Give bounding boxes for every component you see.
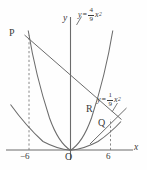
equation-steep-denominator: 9	[88, 15, 94, 24]
equation-flat-variable: x	[114, 96, 118, 104]
equation-steep-exponent: 2	[99, 12, 102, 18]
equation-label-flat-parabola: y = 1 9 x2	[97, 92, 121, 108]
line-segment-through-Q	[90, 108, 127, 144]
equation-flat-denominator: 9	[107, 100, 113, 109]
equation-flat-equals: =	[101, 96, 106, 104]
point-label-R: R	[86, 104, 93, 114]
equation-steep-lhs: y	[78, 11, 82, 19]
point-label-Q: Q	[98, 118, 105, 128]
x-axis-label: x	[134, 143, 138, 153]
coordinate-geometry-figure: y x −6 6 O P R Q y = 4 9 x2 y = 1 9 x2	[0, 0, 147, 170]
x-tick-label-6: 6	[106, 152, 111, 161]
equation-flat-lhs: y	[97, 96, 101, 104]
axes	[6, 17, 133, 160]
equation-label-steep-parabola: y = 4 9 x2	[78, 7, 102, 23]
x-tick-label-minus-6: −6	[20, 152, 30, 161]
equation-steep-fraction: 4 9	[88, 7, 94, 23]
plot-canvas	[0, 0, 147, 170]
point-label-origin: O	[65, 152, 72, 162]
equation-flat-exponent: 2	[118, 97, 121, 103]
y-axis-label: y	[63, 14, 67, 24]
equation-steep-variable: x	[95, 11, 99, 19]
point-label-P: P	[9, 28, 15, 38]
equation-steep-equals: =	[82, 11, 87, 19]
equation-flat-numerator: 1	[107, 92, 113, 100]
equation-flat-fraction: 1 9	[107, 92, 113, 108]
equation-steep-numerator: 4	[88, 7, 94, 15]
